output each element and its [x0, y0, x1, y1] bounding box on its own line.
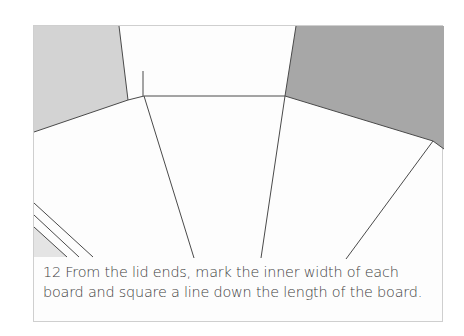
figure-caption: 12 From the lid ends, mark the inner wid… — [43, 262, 443, 302]
board-line-2 — [261, 96, 285, 258]
board-line-3 — [346, 141, 433, 259]
board-line-1 — [144, 96, 194, 258]
right-side-panel — [285, 26, 444, 149]
caption-line-2: board and square a line down the length … — [43, 282, 443, 302]
caption-line-1: 12 From the lid ends, mark the inner wid… — [43, 262, 443, 282]
